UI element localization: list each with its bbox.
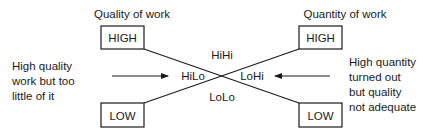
- right-annotation-line: not adequate: [349, 101, 416, 113]
- left-annotation: High quality work but too little of it: [11, 60, 75, 102]
- quadrant-hihi: HiHi: [211, 49, 233, 61]
- quadrant-hilo: HiLo: [181, 70, 205, 82]
- quality-axis-title: Quality of work: [94, 8, 170, 20]
- quality-high-box: HIGH: [101, 26, 144, 49]
- quality-low-label: LOW: [109, 110, 135, 122]
- quadrant-lolo: LoLo: [209, 91, 235, 103]
- quadrant-lohi: LoHi: [240, 70, 264, 82]
- quality-low-box: LOW: [101, 103, 144, 127]
- quantity-low-label: LOW: [307, 110, 333, 122]
- left-annotation-line: little of it: [12, 90, 55, 102]
- right-annotation-line: High quantity: [349, 56, 416, 68]
- quality-high-label: HIGH: [108, 32, 137, 44]
- quantity-low-box: LOW: [299, 103, 342, 127]
- left-annotation-line: High quality: [12, 60, 72, 72]
- quantity-high-box: HIGH: [299, 26, 342, 49]
- right-annotation-line: turned out: [349, 71, 402, 83]
- right-annotation-line: but quality: [349, 86, 402, 98]
- right-annotation: High quantity turned out but quality not…: [349, 56, 416, 113]
- quantity-axis-title: Quantity of work: [303, 8, 386, 20]
- left-annotation-line: work but too: [11, 75, 75, 87]
- quality-quantity-diagram: Quality of work Quantity of work HIGH LO…: [0, 0, 423, 136]
- quantity-high-label: HIGH: [306, 32, 335, 44]
